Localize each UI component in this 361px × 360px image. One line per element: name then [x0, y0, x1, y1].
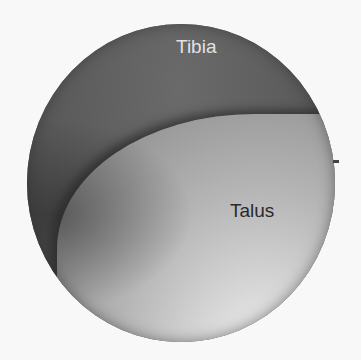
- scope-orientation-marker: [333, 160, 339, 163]
- tibia-label: Tibia: [176, 36, 216, 58]
- talus-label: Talus: [230, 200, 274, 222]
- arthroscopic-view: [27, 24, 335, 342]
